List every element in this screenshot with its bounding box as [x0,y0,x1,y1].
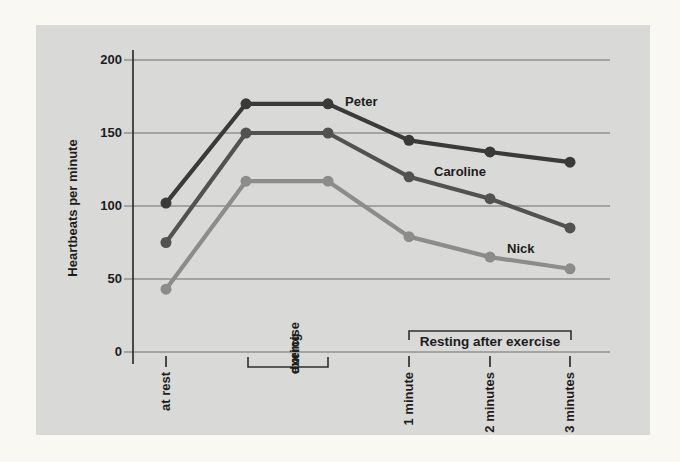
during-exercise-label-line2: exercise [288,322,302,374]
y-tick-label-0: 0 [78,343,122,360]
series-label-peter: Peter [345,94,378,109]
resting-after-exercise-label: Resting after exercise [420,334,560,349]
y-tick-label-50: 50 [78,270,122,287]
y-tick-label-100: 100 [78,197,122,214]
series-label-caroline: Caroline [434,164,486,179]
x-tick-label-0: at rest [159,372,173,411]
page-background: Heartbeats per minute Resting after exer… [0,0,680,462]
y-tick-label-150: 150 [78,124,122,141]
x-tick-label-1: 1 minute [402,372,416,425]
series-label-nick: Nick [507,241,534,256]
x-tick-label-3: 3 minutes [563,372,577,433]
y-tick-label-200: 200 [78,51,122,68]
x-tick-label-2: 2 minutes [483,372,497,433]
chart-labels-layer: Heartbeats per minute Resting after exer… [0,0,680,462]
